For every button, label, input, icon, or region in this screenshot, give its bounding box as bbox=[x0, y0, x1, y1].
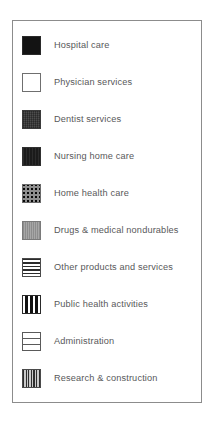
legend-swatch-icon bbox=[22, 295, 41, 314]
legend-panel: Hospital carePhysician servicesDentist s… bbox=[12, 20, 202, 403]
legend-item-label: Hospital care bbox=[54, 40, 110, 51]
legend-item: Drugs & medical nondurables bbox=[22, 220, 179, 240]
legend-swatch-icon bbox=[22, 369, 41, 388]
legend-item-label: Physician services bbox=[54, 77, 132, 88]
legend-item: Nursing home care bbox=[22, 146, 134, 166]
legend-swatch-icon bbox=[22, 147, 41, 166]
legend-item-label: Home health care bbox=[54, 188, 129, 199]
legend-list: Hospital carePhysician servicesDentist s… bbox=[13, 21, 201, 402]
legend-item: Research & construction bbox=[22, 368, 158, 388]
legend-item: Hospital care bbox=[22, 35, 110, 55]
legend-item: Administration bbox=[22, 331, 114, 351]
legend-swatch-icon bbox=[22, 73, 41, 92]
legend-swatch-icon bbox=[22, 258, 41, 277]
legend-swatch-icon bbox=[22, 221, 41, 240]
legend-swatch-icon bbox=[22, 36, 41, 55]
legend-item-label: Drugs & medical nondurables bbox=[54, 225, 179, 236]
legend-item-label: Nursing home care bbox=[54, 151, 134, 162]
legend-item: Other products and services bbox=[22, 257, 173, 277]
legend-item: Dentist services bbox=[22, 109, 121, 129]
legend-item-label: Research & construction bbox=[54, 373, 158, 384]
legend-item-label: Public health activities bbox=[54, 299, 148, 310]
legend-item: Public health activities bbox=[22, 294, 148, 314]
legend-item-label: Administration bbox=[54, 336, 114, 347]
legend-swatch-icon bbox=[22, 332, 41, 351]
legend-item: Physician services bbox=[22, 72, 132, 92]
legend-swatch-icon bbox=[22, 184, 41, 203]
legend-item-label: Dentist services bbox=[54, 114, 121, 125]
legend-item-label: Other products and services bbox=[54, 262, 173, 273]
legend-swatch-icon bbox=[22, 110, 41, 129]
legend-item: Home health care bbox=[22, 183, 129, 203]
